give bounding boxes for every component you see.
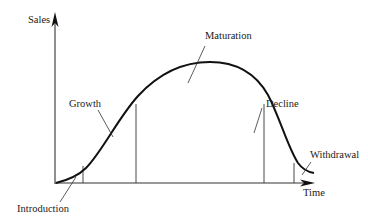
stage-label-decline: Decline — [266, 99, 299, 110]
stage-label-withdrawal: Withdrawal — [310, 150, 359, 161]
leader-decline — [254, 108, 262, 133]
sales-curve — [56, 62, 314, 183]
stage-label-maturation: Maturation — [205, 31, 252, 42]
x-axis-label: Time — [303, 188, 325, 199]
leader-growth — [98, 110, 113, 137]
stage-label-growth: Growth — [69, 99, 101, 110]
y-axis-label: Sales — [28, 15, 50, 26]
stage-label-introduction: Introduction — [17, 204, 69, 215]
